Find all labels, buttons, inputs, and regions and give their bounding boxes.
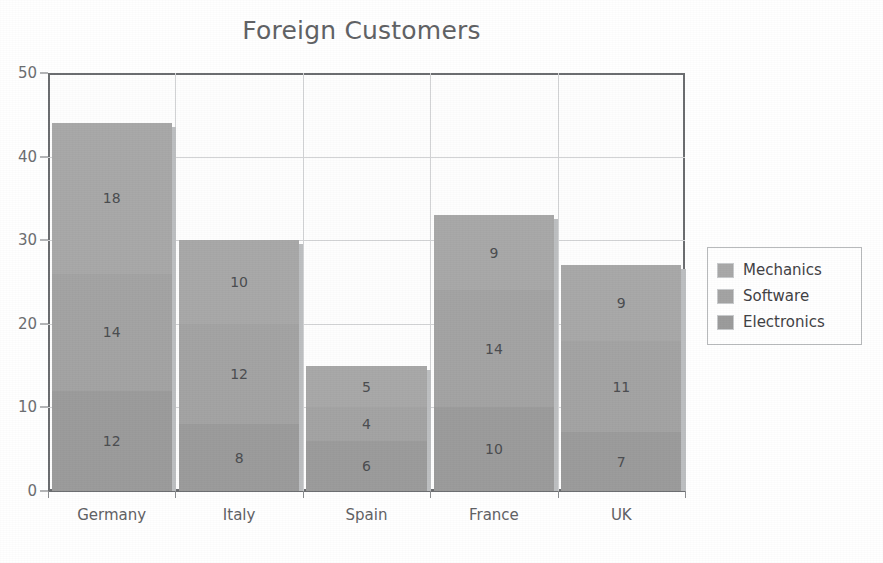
y-tick-label: 10 [18, 398, 48, 416]
x-tick-mark [175, 491, 176, 498]
bar-segment-electronics[interactable]: 8 [179, 424, 299, 491]
x-tick-label-italy: Italy [223, 506, 256, 524]
bar-value-label: 5 [306, 379, 426, 395]
bar-segment-electronics[interactable]: 10 [434, 407, 554, 491]
bar-value-label: 9 [434, 245, 554, 261]
bar-value-label: 4 [306, 416, 426, 432]
x-tick-label-germany: Germany [77, 506, 146, 524]
bar-value-label: 7 [561, 454, 681, 470]
bar-italy[interactable]: 81210 [179, 240, 299, 491]
legend-item-mechanics[interactable]: Mechanics [717, 257, 851, 283]
y-tick-label: 40 [18, 148, 48, 166]
bar-value-label: 14 [52, 324, 172, 340]
gridline-vertical [558, 73, 559, 491]
legend-item-software[interactable]: Software [717, 283, 851, 309]
legend-swatch-icon [717, 315, 734, 330]
x-tick-mark [430, 491, 431, 498]
bar-segment-mechanics[interactable]: 9 [561, 265, 681, 340]
bar-value-label: 12 [179, 366, 299, 382]
bar-germany[interactable]: 121418 [52, 123, 172, 491]
x-axis-line [48, 491, 685, 492]
x-tick-mark [48, 491, 49, 498]
x-tick-mark [685, 491, 686, 498]
bar-segment-electronics[interactable]: 7 [561, 432, 681, 491]
bar-segment-software[interactable]: 14 [52, 274, 172, 391]
y-tick-label: 50 [18, 64, 48, 82]
bar-value-label: 11 [561, 379, 681, 395]
bar-segment-mechanics[interactable]: 10 [179, 240, 299, 324]
bar-value-label: 12 [52, 433, 172, 449]
legend-label: Electronics [743, 313, 825, 331]
bar-segment-software[interactable]: 14 [434, 290, 554, 407]
bar-segment-software[interactable]: 12 [179, 324, 299, 424]
bar-segment-software[interactable]: 11 [561, 341, 681, 433]
x-tick-label-spain: Spain [346, 506, 388, 524]
legend-item-electronics[interactable]: Electronics [717, 309, 851, 335]
bar-value-label: 18 [52, 190, 172, 206]
bar-segment-electronics[interactable]: 12 [52, 391, 172, 491]
x-tick-mark [303, 491, 304, 498]
bar-value-label: 10 [434, 441, 554, 457]
legend-swatch-icon [717, 263, 734, 278]
bar-value-label: 6 [306, 458, 426, 474]
chart-title: Foreign Customers [0, 16, 883, 45]
chart-legend: MechanicsSoftwareElectronics [707, 247, 862, 345]
y-tick-label: 30 [18, 231, 48, 249]
bar-spain[interactable]: 645 [306, 366, 426, 491]
legend-label: Software [743, 287, 809, 305]
bar-france[interactable]: 10149 [434, 215, 554, 491]
bar-value-label: 9 [561, 295, 681, 311]
chart-canvas: Foreign Customers 01020304050 1214188121… [0, 0, 883, 563]
bar-segment-electronics[interactable]: 6 [306, 441, 426, 491]
bar-uk[interactable]: 7119 [561, 265, 681, 491]
y-tick-label: 0 [27, 482, 48, 500]
plot-area: 01020304050 12141881210645101497119 Germ… [48, 73, 685, 491]
bar-value-label: 8 [179, 450, 299, 466]
x-tick-label-france: France [469, 506, 519, 524]
bar-segment-mechanics[interactable]: 5 [306, 366, 426, 408]
bar-value-label: 10 [179, 274, 299, 290]
bar-segment-mechanics[interactable]: 18 [52, 123, 172, 273]
x-tick-label-uk: UK [611, 506, 632, 524]
bar-segment-mechanics[interactable]: 9 [434, 215, 554, 290]
x-tick-mark [558, 491, 559, 498]
legend-label: Mechanics [743, 261, 822, 279]
bar-segment-software[interactable]: 4 [306, 407, 426, 440]
legend-swatch-icon [717, 289, 734, 304]
bar-value-label: 14 [434, 341, 554, 357]
y-tick-label: 20 [18, 315, 48, 333]
